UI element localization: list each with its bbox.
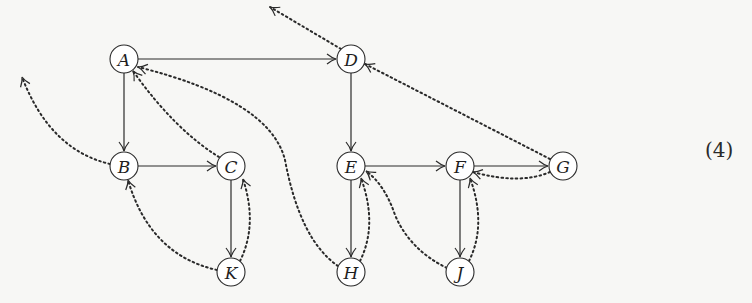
- node-label-K: K: [224, 263, 239, 283]
- node-label-B: B: [117, 157, 131, 177]
- node-label-A: A: [116, 50, 130, 70]
- node-B: B: [110, 152, 138, 180]
- node-label-D: D: [343, 50, 358, 70]
- node-H: H: [337, 258, 365, 286]
- node-C: C: [217, 152, 245, 180]
- tree-edges: [124, 59, 548, 257]
- dfs-graph-diagram: A B C K D E F G H J: [0, 0, 752, 303]
- node-label-H: H: [343, 263, 360, 283]
- edge-G-F: [473, 172, 550, 179]
- node-A: A: [110, 45, 138, 73]
- node-F: F: [446, 152, 474, 180]
- edge-G-D: [365, 64, 550, 159]
- node-G: G: [549, 152, 577, 180]
- node-label-E: E: [344, 157, 358, 177]
- edge-K-C: [240, 179, 250, 261]
- node-label-F: F: [453, 157, 467, 177]
- node-label-C: C: [224, 157, 237, 177]
- node-K: K: [217, 258, 245, 286]
- edge-C-A: [133, 71, 219, 157]
- edge-J-E: [366, 171, 447, 268]
- node-E: E: [337, 152, 365, 180]
- equation-number: (4): [705, 138, 733, 162]
- back-edges: [22, 7, 550, 270]
- edge-K-B: [128, 180, 217, 270]
- edge-B-offscreen: [22, 77, 110, 164]
- edge-D-offscreen: [270, 7, 341, 49]
- node-D: D: [337, 45, 365, 73]
- edge-H-E: [360, 178, 369, 261]
- node-label-G: G: [556, 157, 570, 177]
- node-J: J: [446, 258, 474, 286]
- edge-J-F: [469, 178, 478, 261]
